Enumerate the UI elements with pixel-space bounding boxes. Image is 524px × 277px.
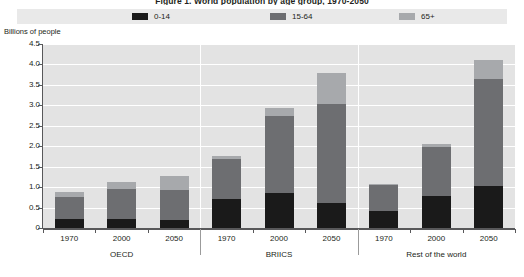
x-axis-tick: [148, 229, 149, 233]
x-axis-line: [43, 229, 515, 230]
y-axis-tick-label: 4.5: [4, 40, 40, 48]
plot-area: [43, 44, 515, 228]
x-axis-tick: [515, 229, 516, 233]
bar-segment-65-plus: [474, 60, 503, 79]
x-axis-tick: [305, 229, 306, 233]
y-axis-line: [42, 44, 43, 229]
y-axis-tick: [38, 228, 42, 229]
bar-segment-65-plus: [160, 176, 189, 190]
y-axis-tick: [38, 208, 42, 209]
x-axis-tick: [95, 229, 96, 233]
x-axis-tick: [43, 229, 44, 233]
group-separator: [358, 44, 359, 228]
legend-swatch-0-14: [132, 13, 148, 20]
y-axis-tick-label: 0.5: [4, 204, 40, 212]
y-axis-tick: [38, 85, 42, 86]
legend-item-15-64[interactable]: 15-64: [270, 12, 312, 21]
legend-item-0-14[interactable]: 0-14: [132, 12, 170, 21]
bar-segment-15-64: [160, 190, 189, 221]
legend-label-15-64: 15-64: [292, 12, 312, 21]
x-axis-tick-label: 2000: [410, 234, 462, 244]
x-axis-tick-label: 2050: [463, 234, 515, 244]
bar-segment-0-14: [160, 220, 189, 228]
bar-rest-of-the-world-2050[interactable]: [474, 60, 503, 228]
bar-segment-15-64: [369, 185, 398, 210]
legend-item-65-plus[interactable]: 65+: [399, 12, 435, 21]
y-axis-tick: [38, 64, 42, 65]
bar-segment-0-14: [107, 219, 136, 228]
bar-segment-65-plus: [55, 192, 84, 196]
gridline: [43, 64, 515, 65]
bar-segment-0-14: [474, 186, 503, 228]
x-axis-tick-label: 2050: [305, 234, 357, 244]
y-axis-tick: [38, 126, 42, 127]
y-axis-tick-label: 1.5: [4, 163, 40, 171]
y-axis-tick: [38, 44, 42, 45]
legend-swatch-15-64: [270, 13, 286, 20]
bar-segment-15-64: [317, 104, 346, 203]
legend-label-65-plus: 65+: [421, 12, 435, 21]
bar-oecd-2000[interactable]: [107, 182, 136, 228]
y-axis-tick: [38, 187, 42, 188]
y-axis-tick: [38, 146, 42, 147]
bar-segment-15-64: [55, 197, 84, 219]
bar-briics-2000[interactable]: [265, 108, 294, 228]
bar-segment-0-14: [212, 199, 241, 228]
y-axis-tick-label: 1.0: [4, 183, 40, 191]
bar-segment-0-14: [317, 203, 346, 228]
y-axis-tick-label: 2.0: [4, 142, 40, 150]
bar-segment-0-14: [265, 193, 294, 228]
bar-segment-65-plus: [212, 156, 241, 159]
bar-segment-65-plus: [422, 144, 451, 147]
bar-rest-of-the-world-2000[interactable]: [422, 144, 451, 228]
gridline: [43, 44, 515, 45]
y-axis-tick: [38, 167, 42, 168]
legend-label-0-14: 0-14: [154, 12, 170, 21]
x-axis-tick-label: 1970: [358, 234, 410, 244]
y-axis-tick-label: 3.0: [4, 101, 40, 109]
bar-briics-1970[interactable]: [212, 156, 241, 228]
x-axis: 197020002050197020002050197020002050OECD…: [0, 229, 524, 277]
bar-segment-15-64: [265, 116, 294, 193]
x-axis-tick-label: 1970: [43, 234, 95, 244]
bar-segment-15-64: [107, 189, 136, 219]
y-axis-tick-label: 2.5: [4, 122, 40, 130]
x-axis-tick: [253, 229, 254, 233]
bar-segment-15-64: [474, 79, 503, 186]
bar-segment-65-plus: [369, 184, 398, 185]
bar-segment-65-plus: [265, 108, 294, 116]
chart-title: Figure 1. World population by age group,…: [0, 0, 524, 5]
chart-root: Figure 1. World population by age group,…: [0, 0, 524, 277]
x-axis-tick: [410, 229, 411, 233]
chart-legend: 0-14 15-64 65+: [17, 9, 507, 24]
x-axis-tick-label: 2000: [253, 234, 305, 244]
group-label-briics: BRIICS: [200, 250, 357, 260]
x-axis-tick: [463, 229, 464, 233]
y-axis-tick: [38, 105, 42, 106]
bar-oecd-2050[interactable]: [160, 176, 189, 228]
x-axis-tick-label: 2000: [96, 234, 148, 244]
x-axis-tick-label: 1970: [201, 234, 253, 244]
legend-swatch-65-plus: [399, 13, 415, 20]
bar-segment-15-64: [212, 159, 241, 200]
bar-segment-0-14: [422, 196, 451, 228]
group-separator: [200, 44, 201, 228]
bar-segment-0-14: [369, 211, 398, 228]
gridline: [43, 105, 515, 106]
bar-oecd-1970[interactable]: [55, 192, 84, 228]
x-axis-tick-label: 2050: [148, 234, 200, 244]
y-axis-tick-label: 3.5: [4, 81, 40, 89]
legend-items: 0-14 15-64 65+: [17, 9, 507, 24]
bar-segment-65-plus: [107, 182, 136, 189]
bar-segment-15-64: [422, 147, 451, 196]
bar-rest-of-the-world-1970[interactable]: [369, 184, 398, 228]
gridline: [43, 85, 515, 86]
bar-segment-0-14: [55, 219, 84, 228]
y-axis-tick-label: 4.0: [4, 60, 40, 68]
bar-segment-65-plus: [317, 73, 346, 103]
group-label-rest-of-the-world: Rest of the world: [358, 250, 515, 260]
bar-briics-2050[interactable]: [317, 73, 346, 228]
group-label-oecd: OECD: [43, 250, 200, 260]
